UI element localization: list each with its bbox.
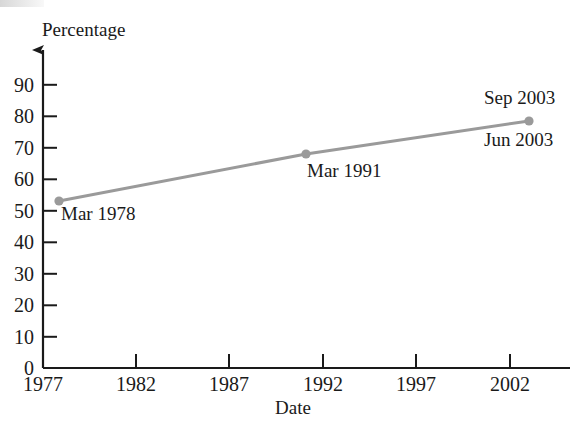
x-tick-label-1992: 1992 [283,374,363,394]
x-tick-label-1977: 1977 [3,374,83,394]
x-tick-marks [136,354,510,368]
data-point-jun-2003 [524,116,533,125]
y-tick-label-10: 10 [0,327,34,347]
y-tick-label-80: 80 [0,106,34,126]
y-tick-label-90: 90 [0,75,34,95]
y-tick-label-40: 40 [0,232,34,252]
y-tick-label-30: 30 [0,264,34,284]
line-chart: Percentage Date 90 80 70 60 50 40 30 20 … [0,0,586,426]
x-tick-label-1982: 1982 [96,374,176,394]
x-tick-label-1987: 1987 [189,374,269,394]
y-tick-label-70: 70 [0,138,34,158]
annotation-sep-2003: Sep 2003 [484,88,555,107]
x-tick-label-1997: 1997 [376,374,456,394]
data-line [59,121,529,201]
x-axis-title: Date [0,398,586,417]
y-tick-label-20: 20 [0,295,34,315]
y-tick-marks [43,85,57,337]
annotation-mar-1978: Mar 1978 [61,204,135,223]
y-tick-label-50: 50 [0,201,34,221]
y-axis-title: Percentage [42,20,125,39]
data-point-mar-1991 [301,149,310,158]
annotation-jun-2003: Jun 2003 [484,130,553,149]
annotation-mar-1991: Mar 1991 [307,161,381,180]
x-tick-label-2002: 2002 [470,374,550,394]
y-tick-label-60: 60 [0,169,34,189]
